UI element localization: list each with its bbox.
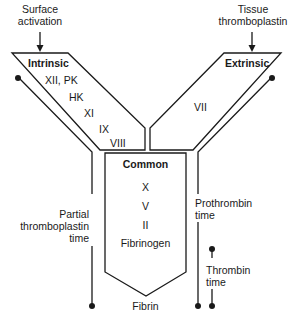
intrinsic-factor-ix: IX (99, 123, 109, 135)
tissue-thromboplastin-label: Tissue thromboplastin (218, 3, 288, 27)
fibrin-output: Fibrin (105, 300, 186, 312)
pt-range-line (198, 78, 271, 194)
tissue-line2: thromboplastin (218, 15, 288, 27)
tt-line1: Thrombin (206, 264, 250, 276)
pt-line2: time (195, 209, 252, 221)
tissue-thromboplastin-arrow (249, 32, 256, 52)
common-factor-ii: II (105, 219, 186, 231)
ptt-line3: time (0, 232, 89, 244)
common-factor-x: X (105, 181, 186, 193)
intrinsic-factor-xi: XI (84, 107, 94, 119)
common-factor-v: V (105, 200, 186, 212)
surface-activation-line1: Surface (14, 3, 66, 15)
intrinsic-factor-hk: HK (69, 91, 84, 103)
intrinsic-title: Intrinsic (28, 57, 69, 69)
pt-label: Prothrombin time (195, 197, 252, 221)
surface-activation-label: Surface activation (14, 3, 66, 27)
tt-line2: time (206, 276, 250, 288)
tt-label: Thrombin time (206, 264, 250, 288)
ptt-line1: Partial (0, 208, 89, 220)
intrinsic-factor-viii: VIII (110, 137, 126, 149)
surface-activation-line2: activation (14, 15, 66, 27)
surface-activation-arrow (37, 32, 44, 52)
ptt-line2: thromboplastin (0, 220, 89, 232)
extrinsic-title: Extrinsic (225, 57, 269, 69)
intrinsic-factor-xii-pk: XII, PK (45, 74, 78, 86)
common-factor-fibrinogen: Fibrinogen (105, 237, 186, 249)
pt-line1: Prothrombin (195, 197, 252, 209)
ptt-label: Partial thromboplastin time (0, 208, 89, 244)
tissue-line1: Tissue (218, 3, 288, 15)
extrinsic-factor-vii: VII (194, 101, 207, 113)
common-title: Common (105, 158, 186, 170)
